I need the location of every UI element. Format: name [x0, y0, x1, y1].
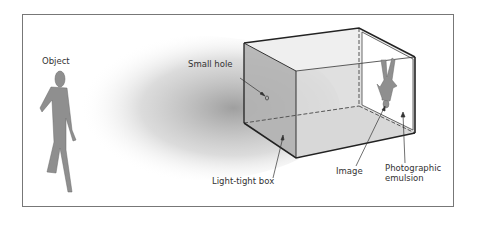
photographic-emulsion-label-line2: emulsion [385, 173, 424, 183]
small-hole-label: Small hole [188, 59, 233, 69]
light-tight-box-label: Light-tight box [212, 176, 274, 186]
image-label: Image [336, 166, 363, 176]
photographic-emulsion-label-line1: Photographic [385, 163, 441, 173]
object-label: Object [42, 56, 70, 66]
